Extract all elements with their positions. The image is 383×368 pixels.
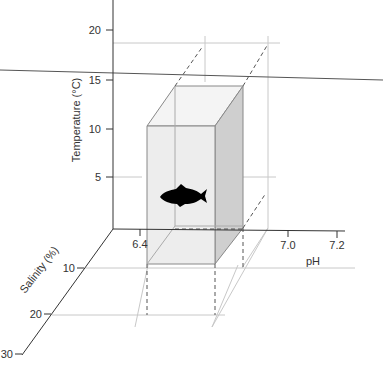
ph-tick-6-4: 6.4 <box>132 238 147 250</box>
ph-axis-label: pH <box>306 255 320 267</box>
ph-tick-7-2: 7.2 <box>329 239 344 251</box>
tolerance-diagram: 20 15 10 5 Temperature (°C) 6.4 7.0 7.2 … <box>0 0 383 368</box>
salinity-tick-20: 20 <box>30 308 42 320</box>
temp-tick-15: 15 <box>89 74 101 86</box>
temperature-axis-label: Temperature (°C) <box>70 78 82 162</box>
temp-tick-10: 10 <box>89 123 101 135</box>
salinity-tick-30: 30 <box>1 348 13 360</box>
temp-tick-20: 20 <box>89 24 101 36</box>
salinity-axis-label: Salinity (%) <box>17 244 61 295</box>
reference-line <box>0 70 383 80</box>
salinity-tick-10: 10 <box>63 262 75 274</box>
tolerance-box <box>147 86 243 264</box>
ph-tick-7-0: 7.0 <box>280 239 295 251</box>
temp-tick-5: 5 <box>95 171 101 183</box>
